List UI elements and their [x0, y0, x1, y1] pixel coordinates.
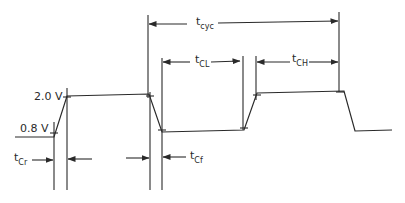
t-cl-dimension: tCL: [163, 53, 240, 69]
clock-waveform: [15, 91, 392, 137]
t-cf-sub: Cf: [194, 156, 203, 165]
voltage-low-label: 0.8 V: [20, 122, 49, 135]
svg-text:tCr: tCr: [14, 151, 28, 167]
t-ch-sub: CH: [296, 59, 308, 68]
svg-text:tCf: tCf: [190, 149, 203, 165]
t-cyc-sub: cyc: [200, 22, 214, 31]
t-cyc-dimension: tcyc: [149, 15, 338, 31]
threshold-ticks: [50, 92, 344, 133]
svg-text:tcyc: tcyc: [196, 15, 214, 31]
t-cl-sub: CL: [199, 60, 210, 69]
t-cr-sub: Cr: [18, 158, 28, 167]
t-cf-dimension: tCf: [126, 149, 203, 165]
clock-timing-diagram: 2.0 V 0.8 V tcyc tCL tCH tCr: [0, 0, 405, 203]
svg-text:tCL: tCL: [195, 53, 210, 69]
t-ch-dimension: tCH: [257, 52, 338, 68]
t-cr-dimension: tCr: [14, 151, 92, 167]
svg-text:tCH: tCH: [292, 52, 308, 68]
voltage-high-label: 2.0 V: [34, 90, 63, 103]
